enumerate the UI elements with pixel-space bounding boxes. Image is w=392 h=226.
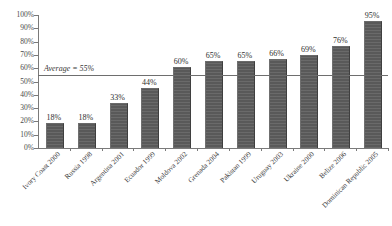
x-axis-tick-mark: [229, 148, 230, 151]
y-axis-labels: 100%90%80%70%60%50%40%30%20%10%0%: [0, 0, 34, 226]
y-axis-tick-label: 90%: [2, 24, 34, 32]
x-axis-category-label: Argentina 2001: [89, 151, 126, 188]
average-reference-line: [38, 75, 388, 76]
x-axis-category-label: Grenada 2004: [187, 151, 221, 185]
bar-value-label: 18%: [66, 114, 106, 122]
x-axis-tick-mark: [293, 148, 294, 151]
bar: [141, 88, 159, 148]
x-axis-tick-mark: [197, 148, 198, 151]
x-axis-line: [38, 148, 388, 149]
bar-value-label: 69%: [288, 46, 328, 54]
x-axis-category-label: Uruguay 2003: [250, 151, 284, 185]
x-axis-category-label: Moldova 2002: [154, 151, 189, 186]
x-axis-tick-mark: [70, 148, 71, 151]
y-axis-tick-label: 80%: [2, 38, 34, 46]
bar: [46, 123, 64, 148]
bar: [364, 21, 382, 148]
bar: [332, 46, 350, 148]
x-axis-tick-mark: [388, 148, 389, 151]
bar: [237, 61, 255, 148]
y-axis-tick-label: 100%: [2, 11, 34, 19]
y-axis-tick-label: 10%: [2, 131, 34, 139]
x-axis-tick-mark: [356, 148, 357, 151]
y-axis-tick-label: 70%: [2, 51, 34, 59]
average-annotation-label: Average = 55%: [44, 64, 94, 73]
y-axis-tick-label: 30%: [2, 104, 34, 112]
y-axis-tick-label: 20%: [2, 117, 34, 125]
plot-area: [38, 15, 388, 148]
x-axis-tick-mark: [102, 148, 103, 151]
x-axis-tick-mark: [133, 148, 134, 151]
bar-value-label: 33%: [98, 94, 138, 102]
y-axis-tick-label: 50%: [2, 78, 34, 86]
bar: [300, 55, 318, 148]
bar-value-label: 76%: [320, 37, 360, 45]
x-axis-tick-mark: [165, 148, 166, 151]
x-axis-tick-mark: [261, 148, 262, 151]
x-axis-category-label: Belize 2006: [319, 151, 349, 181]
bar-chart: 100%90%80%70%60%50%40%30%20%10%0% Averag…: [0, 0, 392, 226]
x-axis-category-label: Ukraine 2000: [284, 151, 317, 184]
bar: [173, 67, 191, 148]
bar-value-label: 44%: [129, 79, 169, 87]
bar: [78, 123, 96, 148]
bar: [205, 61, 223, 148]
y-axis-tick-label: 40%: [2, 91, 34, 99]
x-axis-category-label: Pakistan 1999: [219, 151, 253, 185]
x-axis-tick-mark: [324, 148, 325, 151]
bar: [269, 59, 287, 148]
y-axis-tick-label: 0%: [2, 144, 34, 152]
bar-value-label: 95%: [352, 12, 392, 20]
bar: [110, 103, 128, 148]
y-axis-tick-label: 60%: [2, 64, 34, 72]
x-axis-category-label: Dominican Republic 2005: [321, 151, 380, 210]
x-axis-category-label: Russia 1998: [64, 151, 94, 181]
